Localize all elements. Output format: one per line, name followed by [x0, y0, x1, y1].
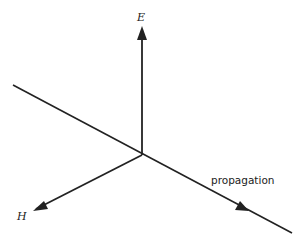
e-field-arrow-icon	[137, 26, 147, 40]
propagation-axis-line	[13, 85, 292, 233]
h-field-label: H	[16, 210, 27, 223]
propagation-arrow-icon	[235, 201, 249, 211]
h-field-vector	[36, 155, 142, 209]
em-wave-diagram: E H propagation	[0, 0, 305, 246]
propagation-label: propagation	[211, 174, 275, 186]
h-field-arrow-icon	[33, 201, 48, 211]
e-field-label: E	[136, 11, 145, 24]
